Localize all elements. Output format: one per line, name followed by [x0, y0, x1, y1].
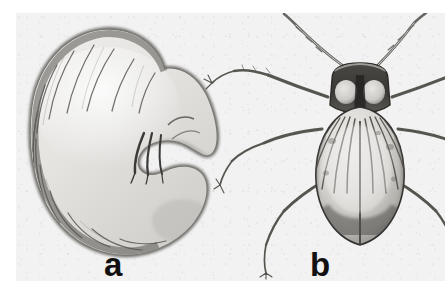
leg-middle-right — [398, 129, 445, 177]
leg-hind-right — [396, 181, 445, 275]
larva-figure — [31, 30, 217, 255]
plate-illustration — [16, 13, 445, 281]
figure-plate: a b — [0, 0, 446, 299]
leg-middle-left — [214, 129, 322, 193]
leg-front-right — [392, 65, 445, 97]
photographic-plate — [16, 13, 445, 281]
beetle-pronotum — [330, 63, 390, 113]
pronotum-patch-left — [335, 80, 357, 104]
elytra-highlight — [324, 125, 392, 213]
panel-label-b: b — [310, 248, 330, 281]
pronotum-patch-right — [363, 80, 385, 104]
beetle-elytra — [302, 107, 418, 245]
antenna-left — [284, 14, 342, 65]
leg-front-left — [204, 65, 328, 97]
beetle-antennae — [284, 13, 426, 65]
beetle-figure — [204, 13, 445, 279]
panel-label-a: a — [104, 248, 122, 281]
